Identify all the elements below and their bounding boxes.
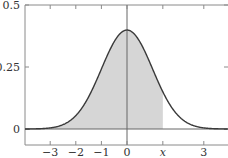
x-tick-label: −3	[42, 146, 58, 158]
x-tick-label: 3	[200, 146, 207, 158]
x-tick-label: 0	[124, 146, 131, 158]
x-tick-label: −2	[68, 146, 84, 158]
y-tick-label: 0.5	[3, 0, 21, 12]
y-tick-label: 0.25	[0, 61, 20, 74]
axes-layer	[25, 5, 228, 145]
y-tick-label: 0	[13, 123, 20, 136]
normal-distribution-chart: −3−2−10x300.250.5	[0, 0, 228, 158]
x-tick-label: −1	[93, 146, 109, 158]
x-tick-label: x	[160, 146, 167, 158]
